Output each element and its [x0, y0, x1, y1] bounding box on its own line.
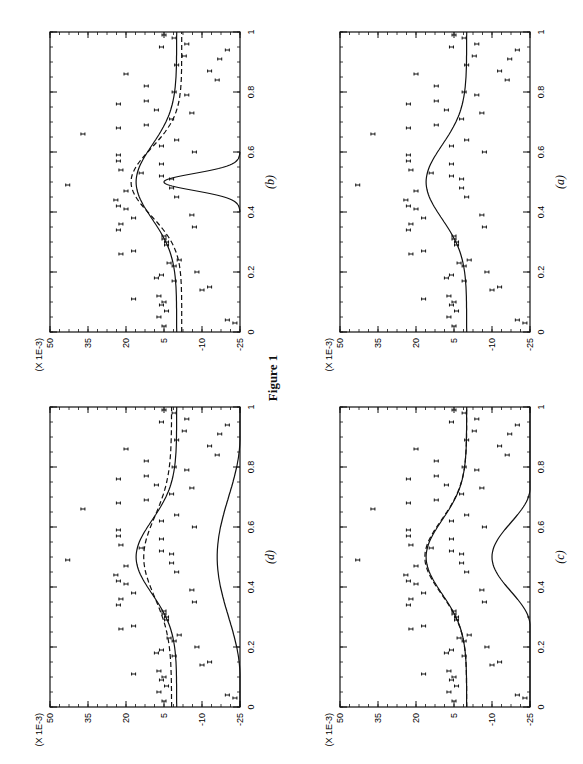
data-point — [116, 103, 120, 106]
data-point — [175, 571, 179, 574]
data-point — [449, 163, 453, 166]
x-tick-label: 0.6 — [536, 521, 546, 534]
x-tick-label: 0.4 — [246, 581, 256, 594]
panel-d: 5035205-10-25(X 1E-3)00.20.40.60.81(d) — [20, 395, 280, 735]
data-point — [218, 433, 222, 436]
data-point — [460, 187, 464, 190]
panel-b: 5035205-10-25(X 1E-3)00.20.40.60.81(b) — [20, 20, 280, 360]
solid-curve — [426, 407, 467, 707]
data-point — [154, 109, 158, 112]
data-point — [434, 124, 438, 127]
panel-label: (d) — [263, 550, 277, 564]
data-point — [154, 277, 158, 280]
y-tick-label: 35 — [373, 338, 383, 348]
x-tick-label: 0.4 — [246, 206, 256, 219]
data-point — [116, 127, 120, 130]
data-point — [434, 499, 438, 502]
data-point — [406, 154, 410, 157]
data-point — [406, 205, 410, 208]
data-point — [116, 154, 120, 157]
data-point — [356, 559, 360, 562]
data-point — [404, 199, 408, 202]
data-point — [116, 535, 120, 538]
data-point — [170, 562, 174, 565]
data-point — [414, 565, 418, 568]
data-point — [460, 178, 464, 181]
x-tick-label: 1 — [536, 404, 546, 409]
data-point — [132, 217, 136, 220]
data-point — [162, 301, 166, 304]
solid-curve — [136, 32, 177, 332]
panel-label: (b) — [263, 175, 277, 189]
data-point — [233, 322, 237, 325]
data-point — [515, 424, 519, 427]
y-tick-label: 20 — [411, 338, 421, 348]
data-point — [460, 553, 464, 556]
y-tick-label: 50 — [45, 338, 55, 348]
data-point — [447, 691, 451, 694]
data-point — [447, 295, 451, 298]
figure-caption: Figure 1 — [265, 355, 281, 401]
data-point — [434, 460, 438, 463]
data-point — [460, 562, 464, 565]
data-point — [515, 319, 519, 322]
data-point — [406, 229, 410, 232]
data-point — [159, 679, 163, 682]
data-point — [225, 319, 229, 322]
data-point — [472, 55, 476, 58]
data-point — [159, 274, 163, 277]
data-point — [434, 100, 438, 103]
data-point — [225, 694, 229, 697]
data-point — [132, 298, 136, 301]
data-point — [119, 169, 123, 172]
data-point — [444, 484, 448, 487]
data-point — [409, 223, 413, 226]
data-point — [215, 454, 219, 457]
data-point — [175, 514, 179, 517]
x-tick-label: 1 — [246, 29, 256, 34]
data-point — [177, 634, 181, 637]
y-tick-label: 20 — [121, 338, 131, 348]
data-point — [465, 514, 469, 517]
data-point — [116, 502, 120, 505]
panel-label: (a) — [553, 175, 567, 189]
data-point — [485, 271, 489, 274]
x-tick-label: 0.4 — [536, 581, 546, 594]
data-point — [523, 697, 527, 700]
y-tick-label: 50 — [335, 713, 345, 723]
data-point — [482, 151, 486, 154]
x-tick-label: 1 — [246, 404, 256, 409]
plot-d: 5035205-10-25(X 1E-3)00.20.40.60.81(d) — [20, 395, 280, 735]
x-tick-label: 0 — [536, 329, 546, 334]
data-point — [449, 46, 453, 49]
data-point — [455, 685, 459, 688]
data-point — [165, 310, 169, 313]
data-point — [409, 253, 413, 256]
data-point — [119, 253, 123, 256]
data-point — [116, 478, 120, 481]
data-point — [371, 133, 375, 136]
y-tick-label: 5 — [449, 338, 459, 343]
data-point — [132, 250, 136, 253]
data-point — [144, 100, 148, 103]
data-point — [225, 49, 229, 52]
solid-curve — [136, 407, 177, 707]
data-point — [192, 151, 196, 154]
data-point — [472, 430, 476, 433]
data-point — [195, 271, 199, 274]
data-point — [159, 145, 163, 148]
panel-c: 5035205-10-25(X 1E-3)00.20.40.60.81(c) — [310, 395, 570, 735]
y-tick-label: 50 — [335, 338, 345, 348]
data-point — [457, 262, 461, 265]
data-point — [406, 103, 410, 106]
x-tick-label: 0 — [246, 329, 256, 334]
data-point — [449, 520, 453, 523]
data-point — [175, 196, 179, 199]
data-point — [159, 46, 163, 49]
data-point — [119, 544, 123, 547]
data-point — [490, 289, 494, 292]
data-point — [116, 229, 120, 232]
y-tick-label: -25 — [235, 338, 245, 351]
data-point — [172, 412, 176, 415]
y-tick-label: -25 — [525, 338, 535, 351]
